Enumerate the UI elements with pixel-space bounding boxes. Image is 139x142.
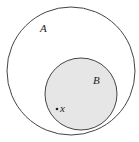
- point-x-dot: [56, 108, 59, 111]
- set-a-label: A: [39, 22, 47, 34]
- set-b-circle: [45, 58, 117, 130]
- point-x-label: x: [59, 102, 65, 114]
- venn-diagram: A B x: [0, 0, 139, 142]
- set-b-label: B: [93, 74, 100, 86]
